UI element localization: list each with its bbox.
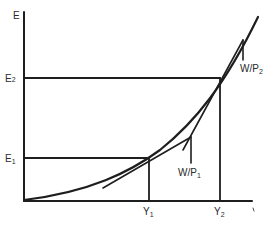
wp1-label: W/P1 bbox=[178, 167, 201, 179]
curve bbox=[24, 17, 258, 200]
y2-label: Y2 bbox=[214, 206, 225, 218]
axis-end-mark bbox=[253, 208, 254, 211]
wp2-label: W/P2 bbox=[240, 63, 263, 75]
e2-label: E2 bbox=[5, 73, 16, 84]
tangent-line-wp1 bbox=[103, 137, 191, 188]
tangent-line-wp2 bbox=[183, 40, 243, 150]
y1-label: Y1 bbox=[143, 206, 154, 218]
diagram-canvas: E E2 E1 Y1 Y2 W/P1 W/P2 bbox=[0, 0, 277, 227]
y-axis-label: E bbox=[13, 10, 20, 21]
e1-label: E1 bbox=[5, 153, 16, 165]
